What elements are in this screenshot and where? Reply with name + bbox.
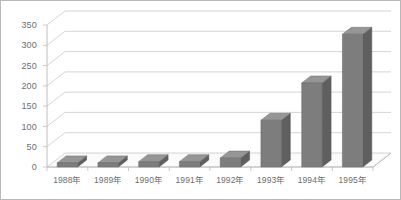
bar-1989 [98,156,127,167]
bar-1994 [302,76,331,167]
ytick-label-250: 250 [9,62,37,71]
xtick-label-1990: 1990年 [129,175,170,185]
xtick-label-1991: 1991年 [169,175,210,185]
bar-1995 [342,27,371,167]
bar-1990 [139,155,168,167]
xtick-label-1989: 1989年 [88,175,129,185]
ytick-label-100: 100 [9,123,37,132]
xtick-label-1988: 1988年 [47,175,88,185]
ytick-label-200: 200 [9,82,37,91]
xtick-label-1992: 1992年 [210,175,251,185]
bar-1992 [220,151,249,167]
xtick-label-1994: 1994年 [292,175,333,185]
bar-1993 [261,113,290,167]
bar-1988 [57,156,86,167]
ytick-label-150: 150 [9,102,37,111]
ytick-label-350: 350 [9,21,37,30]
bar-1991 [179,155,208,167]
xtick-label-1995: 1995年 [332,175,373,185]
bar-series-group [1,1,401,200]
bar-chart-figure: 350 300 250 200 150 100 50 0 1988年 1989年… [0,0,401,200]
ytick-label-300: 300 [9,41,37,50]
ytick-label-50: 50 [9,143,37,152]
xtick-label-1993: 1993年 [251,175,292,185]
plot-area: 350 300 250 200 150 100 50 0 1988年 1989年… [1,1,401,200]
ytick-label-0: 0 [9,163,37,172]
